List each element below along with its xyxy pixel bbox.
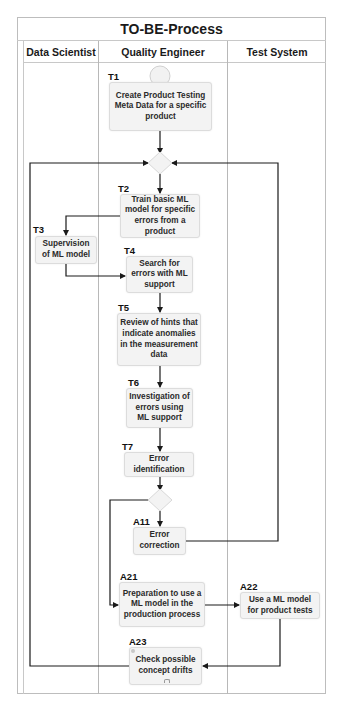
task-id-t4: T4: [124, 245, 135, 256]
task-t4[interactable]: Search for errors with ML support: [126, 256, 193, 293]
task-id-t3: T3: [33, 224, 44, 235]
task-id-t1: T1: [108, 71, 119, 82]
task-t6[interactable]: Investigation of errors using ML support: [126, 388, 193, 428]
task-t3[interactable]: Supervision of ML model: [35, 236, 97, 264]
task-t1[interactable]: Create Product Testing Meta Data for a s…: [109, 82, 212, 131]
gateway-2-icon: [148, 489, 172, 511]
task-t5[interactable]: Review of hints that indicate anomalies …: [117, 313, 201, 366]
task-marker-icon: [131, 649, 135, 653]
task-a21[interactable]: Preparation to use a ML model in the pro…: [119, 582, 205, 627]
task-id-t6: T6: [128, 377, 139, 388]
task-id-t2: T2: [118, 183, 129, 194]
gateway-1-icon: [148, 152, 172, 174]
task-a22[interactable]: Use a ML model for product tests: [240, 592, 320, 619]
task-t7[interactable]: Error identification: [124, 452, 194, 477]
task-id-a23: A23: [129, 636, 146, 647]
task-t2[interactable]: Train basic ML model for specific errors…: [120, 194, 200, 238]
task-id-t7: T7: [122, 441, 133, 452]
task-id-a11: A11: [133, 516, 150, 527]
task-id-a21: A21: [120, 571, 137, 582]
task-a11[interactable]: Error correction: [133, 527, 186, 555]
loop-marker-icon: [164, 679, 170, 683]
task-id-t5: T5: [118, 302, 129, 313]
task-id-a22: A22: [240, 581, 257, 592]
